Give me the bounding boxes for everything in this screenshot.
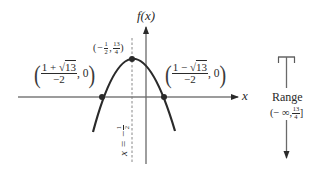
y-axis-label-text: f(x) bbox=[137, 8, 155, 23]
x-axis-label-text: x bbox=[242, 88, 248, 103]
vertex-y-denominator: 4 bbox=[113, 49, 121, 56]
vertex-x-fraction: 1 2 bbox=[104, 41, 108, 55]
aos-lhs: x bbox=[118, 151, 129, 156]
left-root-close-paren: ) bbox=[88, 61, 95, 86]
range-lower-bound: − ∞ bbox=[274, 108, 290, 119]
aos-sign: − bbox=[118, 131, 129, 137]
aos-equals: = bbox=[118, 141, 129, 147]
vertex-separator: , bbox=[109, 43, 112, 53]
vertex-x-denominator: 2 bbox=[104, 49, 108, 56]
range-upper-fraction: 13 4 bbox=[292, 106, 300, 120]
axis-of-symmetry-label: x = − 1 2 bbox=[116, 125, 130, 156]
right-root-open-paren: ( bbox=[165, 61, 172, 86]
vertex-open-paren: ( bbox=[93, 43, 96, 53]
left-root-denominator: −2 bbox=[41, 74, 77, 85]
x-axis-label: x bbox=[242, 89, 248, 102]
y-axis-label: f(x) bbox=[137, 9, 155, 22]
right-root-close-paren: ) bbox=[219, 61, 226, 86]
right-root-radicand: 13 bbox=[196, 61, 207, 73]
aos-denominator: 2 bbox=[124, 125, 131, 129]
vertex-close-paren: ) bbox=[120, 43, 123, 53]
aos-fraction: 1 2 bbox=[116, 125, 130, 129]
range-upper-denominator: 4 bbox=[292, 114, 300, 121]
left-root-label: ( 1 + √13 −2 , 0 ) bbox=[34, 62, 95, 85]
vertex-point bbox=[129, 56, 135, 62]
right-root-label: ( 1 − √13 −2 , 0 ) bbox=[165, 62, 226, 85]
left-root-fraction: 1 + √13 −2 bbox=[41, 62, 77, 85]
parabola-figure: f(x) x ( − 1 2 , 13 4 ) ( 1 + √13 −2 , 0… bbox=[0, 0, 319, 169]
vertex-label: ( − 1 2 , 13 4 ) bbox=[93, 41, 124, 55]
left-root-radicand: 13 bbox=[65, 61, 76, 73]
right-root-point bbox=[161, 94, 167, 100]
left-root-point bbox=[99, 94, 105, 100]
left-root-num-prefix: 1 + bbox=[42, 61, 59, 73]
right-root-num-prefix: 1 − bbox=[173, 61, 190, 73]
right-root-fraction: 1 − √13 −2 bbox=[172, 62, 208, 85]
vertex-y-fraction: 13 4 bbox=[113, 41, 121, 55]
vertex-x-sign: − bbox=[97, 43, 103, 53]
range-close-bracket: ] bbox=[300, 108, 304, 119]
range-title: Range bbox=[272, 91, 303, 103]
range-interval: ( − ∞ , 13 4 ] bbox=[270, 106, 303, 120]
range-title-text: Range bbox=[272, 90, 303, 104]
left-root-open-paren: ( bbox=[34, 61, 41, 86]
right-root-denominator: −2 bbox=[172, 74, 208, 85]
